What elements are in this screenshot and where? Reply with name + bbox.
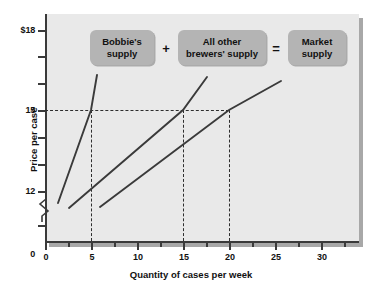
x-tick-label-0: 0 xyxy=(34,252,58,262)
x-axis-title: Quantity of cases per week xyxy=(0,269,382,280)
callout-market-supply: Market supply xyxy=(288,30,346,65)
x-tick-major xyxy=(183,243,185,250)
x-tick-major xyxy=(91,243,93,250)
x-tick-major xyxy=(275,243,277,250)
equals-operator: = xyxy=(269,41,283,56)
y-axis-title: Price per case xyxy=(28,108,39,172)
callout-others-line1: All other xyxy=(203,36,242,48)
x-tick-label-25: 25 xyxy=(264,252,288,262)
y-tick-label-18: $18 xyxy=(21,25,35,35)
supply-curve-figure: $18 15 12 0 0 5 10 15 20 25 30 Quantity … xyxy=(0,0,382,290)
x-tick-major xyxy=(45,243,47,250)
curve-bobbies-supply xyxy=(58,75,97,203)
callout-bobbies-supply: Bobbie's supply xyxy=(90,30,154,65)
x-tick-minor xyxy=(344,243,346,247)
callout-others-line2: brewers' supply xyxy=(186,48,258,60)
x-tick-minor xyxy=(160,243,162,247)
x-tick-minor xyxy=(68,243,70,247)
x-tick-major xyxy=(229,243,231,250)
x-tick-major xyxy=(321,243,323,250)
callout-market-line2: supply xyxy=(302,48,333,60)
callout-other-brewers-supply: All other brewers' supply xyxy=(178,30,266,65)
x-tick-label-15: 15 xyxy=(172,252,196,262)
callout-bobbies-line1: Bobbie's xyxy=(102,36,142,48)
callout-market-line1: Market xyxy=(302,36,333,48)
callout-bobbies-line2: supply xyxy=(107,48,138,60)
x-tick-label-5: 5 xyxy=(80,252,104,262)
x-tick-major xyxy=(137,243,139,250)
y-tick-label-12: 12 xyxy=(25,186,35,196)
x-tick-minor xyxy=(252,243,254,247)
plus-operator: + xyxy=(159,41,173,56)
x-tick-minor xyxy=(298,243,300,247)
x-tick-label-10: 10 xyxy=(126,252,150,262)
x-tick-minor xyxy=(206,243,208,247)
x-tick-label-30: 30 xyxy=(310,252,334,262)
x-tick-minor xyxy=(114,243,116,247)
x-tick-label-20: 20 xyxy=(218,252,242,262)
